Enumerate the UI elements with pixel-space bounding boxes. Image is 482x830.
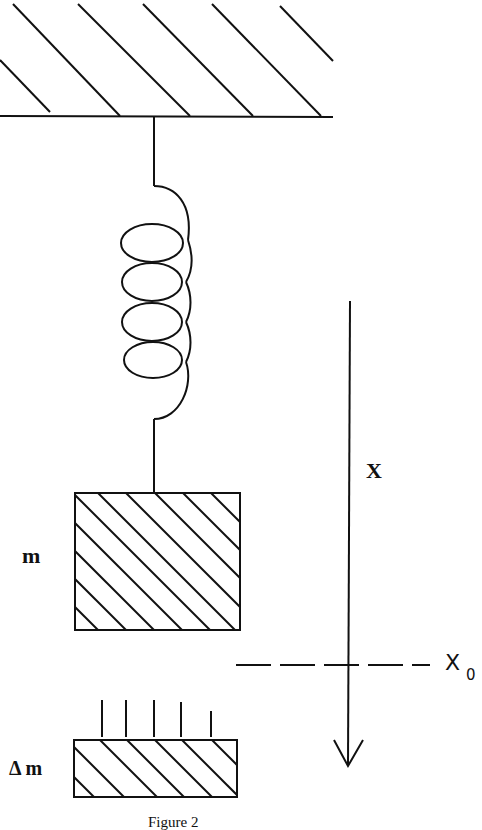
added-mass-block <box>74 740 239 797</box>
falling-lines <box>102 700 211 737</box>
equilibrium-subscript: 0 <box>466 668 476 683</box>
equilibrium-label: X <box>445 652 460 674</box>
mass-block <box>75 493 240 656</box>
axis-label: X <box>366 460 382 482</box>
spring <box>121 116 192 493</box>
added-mass-label: Δ m <box>9 758 42 778</box>
x-axis-arrow <box>334 301 363 766</box>
ceiling-support <box>0 4 333 117</box>
mass-label: m <box>22 545 40 567</box>
figure-caption: Figure 2 <box>148 815 198 830</box>
